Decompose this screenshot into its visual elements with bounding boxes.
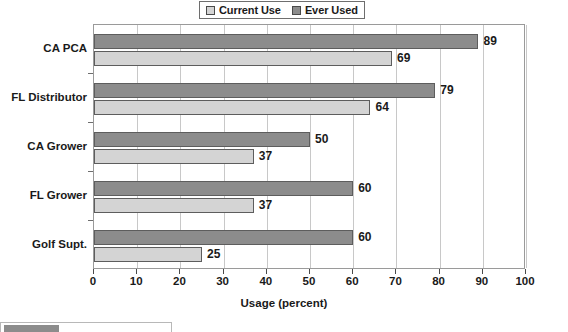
plot-frame: 89697964503760376025 <box>93 24 525 269</box>
x-axis-label: 0 <box>90 276 96 288</box>
x-axis-label: 100 <box>515 276 534 288</box>
x-axis-tick <box>309 269 310 274</box>
legend-label-ever-used: Ever Used <box>305 5 358 16</box>
category-label-fl-grower: FL Grower <box>30 190 87 202</box>
bar-row: 89 <box>94 34 497 49</box>
category-label-ca-grower: CA Grower <box>27 141 87 153</box>
bar-current-use <box>94 100 370 115</box>
bar-row: 37 <box>94 198 272 213</box>
plot-area: 89697964503760376025 <box>94 25 524 268</box>
x-axis-label: 10 <box>130 276 143 288</box>
bar-ever-used <box>94 132 310 147</box>
bar-value-label: 25 <box>207 248 220 260</box>
x-axis-label: 80 <box>432 276 445 288</box>
x-axis-label: 40 <box>259 276 272 288</box>
x-axis-tick <box>482 269 483 274</box>
bar-value-label: 37 <box>259 150 272 162</box>
x-axis-tick <box>525 269 526 274</box>
bar-value-label: 79 <box>440 84 453 96</box>
gridline <box>440 25 441 268</box>
x-axis-tick <box>395 269 396 274</box>
legend-entry-ever-used: Ever Used <box>292 5 358 16</box>
x-axis-tick <box>223 269 224 274</box>
bar-value-label: 69 <box>397 52 410 64</box>
next-figure-swatch-icon <box>4 325 59 332</box>
legend-swatch-dark-icon <box>292 6 301 15</box>
bar-current-use <box>94 149 254 164</box>
bar-row: 25 <box>94 247 220 262</box>
y-axis-tick <box>88 171 93 172</box>
legend-entry-current-use: Current Use <box>206 5 281 16</box>
x-axis-label: 30 <box>216 276 229 288</box>
bar-row: 64 <box>94 100 389 115</box>
x-axis-tick <box>439 269 440 274</box>
x-axis-label: 70 <box>389 276 402 288</box>
bar-row: 37 <box>94 149 272 164</box>
category-label-golf-supt: Golf Supt. <box>32 239 87 251</box>
bar-current-use <box>94 198 254 213</box>
y-axis-tick <box>88 73 93 74</box>
bar-row: 50 <box>94 132 328 147</box>
bar-row: 79 <box>94 83 454 98</box>
next-figure-legend-cropped <box>0 322 172 332</box>
y-axis-tick <box>88 220 93 221</box>
legend-swatch-light-icon <box>206 6 215 15</box>
bar-ever-used <box>94 230 353 245</box>
x-axis-title: Usage (percent) <box>0 298 568 310</box>
bar-value-label: 64 <box>375 101 388 113</box>
bar-ever-used <box>94 181 353 196</box>
category-label-fl-distributor: FL Distributor <box>11 92 87 104</box>
legend-label-current-use: Current Use <box>219 5 281 16</box>
bar-row: 60 <box>94 181 372 196</box>
bar-value-label: 37 <box>259 199 272 211</box>
bar-row: 60 <box>94 230 372 245</box>
x-axis-label: 60 <box>346 276 359 288</box>
x-axis-label: 20 <box>173 276 186 288</box>
bar-value-label: 89 <box>483 35 496 47</box>
x-axis-tick <box>179 269 180 274</box>
bar-ever-used <box>94 34 478 49</box>
bar-value-label: 60 <box>358 182 371 194</box>
y-axis-tick <box>88 122 93 123</box>
chart-legend: Current Use Ever Used <box>199 1 365 19</box>
x-axis-tick <box>136 269 137 274</box>
bar-ever-used <box>94 83 435 98</box>
bar-current-use <box>94 247 202 262</box>
bar-value-label: 60 <box>358 231 371 243</box>
x-axis-label: 90 <box>475 276 488 288</box>
gridline <box>483 25 484 268</box>
bar-current-use <box>94 51 392 66</box>
x-axis-tick <box>352 269 353 274</box>
x-axis-tick <box>266 269 267 274</box>
x-axis-tick <box>93 269 94 274</box>
bar-row: 69 <box>94 51 410 66</box>
bar-value-label: 50 <box>315 133 328 145</box>
x-axis-label: 50 <box>303 276 316 288</box>
category-label-ca-pca: CA PCA <box>43 43 87 55</box>
gridline <box>526 25 527 268</box>
